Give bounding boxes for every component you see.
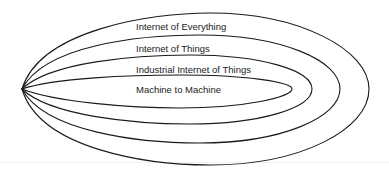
nested-ellipse-diagram: Internet of Everything Internet of Thing… [0,0,389,176]
label-industrial-internet-of-things: Industrial Internet of Things [136,64,251,75]
label-internet-of-things: Internet of Things [136,43,210,54]
label-machine-to-machine: Machine to Machine [136,84,221,95]
label-internet-of-everything: Internet of Everything [136,21,226,32]
